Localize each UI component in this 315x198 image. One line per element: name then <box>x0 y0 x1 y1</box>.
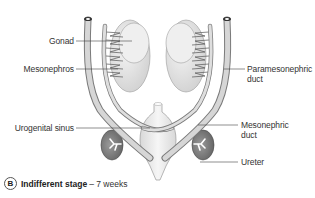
indifferent-stage-diagram <box>0 0 315 198</box>
right-gonad <box>166 20 206 92</box>
label-mesonephric-duct: Mesonephric duct <box>241 120 289 140</box>
panel-letter-badge: B <box>4 177 17 190</box>
label-paramesonephric-line2: duct <box>247 74 312 84</box>
figure-caption: B Indifferent stage – 7 weeks <box>4 177 127 190</box>
label-paramesonephric-line1: Paramesonephric <box>247 64 312 74</box>
label-paramesonephric-duct: Paramesonephric duct <box>247 64 312 84</box>
caption-subtitle: – 7 weeks <box>89 179 127 189</box>
label-mesonephros: Mesonephros <box>24 64 74 74</box>
urogenital-sinus <box>140 103 176 181</box>
label-gonad: Gonad <box>49 36 74 46</box>
caption-title: Indifferent stage <box>21 179 87 189</box>
label-urogenital-sinus: Urogenital sinus <box>15 123 74 133</box>
label-mesonephric-line2: duct <box>241 130 289 140</box>
left-gonad <box>110 20 150 92</box>
label-mesonephric-line1: Mesonephric <box>241 120 289 130</box>
label-ureter: Ureter <box>241 157 264 167</box>
